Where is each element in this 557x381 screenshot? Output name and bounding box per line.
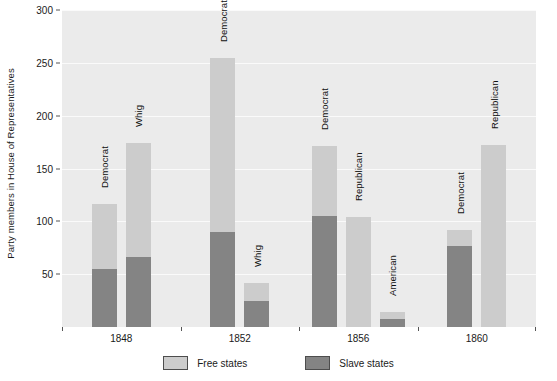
- y-axis-tick-label: 200: [0, 110, 60, 121]
- y-axis-tick-mark: [56, 62, 60, 63]
- legend-label-free-states: Free states: [197, 358, 247, 369]
- bar-segment-free-states: [481, 145, 506, 327]
- bar-segment-free-states: [244, 283, 269, 301]
- bar-1848-democrat: Democrat: [92, 204, 117, 327]
- bar-1856-republican: Republican: [346, 217, 371, 327]
- x-axis-tick-mark: [418, 327, 419, 331]
- y-axis-tick-mark: [56, 10, 60, 11]
- y-axis-tick-mark: [56, 274, 60, 275]
- y-axis-tick-mark: [56, 221, 60, 222]
- bar-segment-free-states: [126, 143, 151, 257]
- gridline: [62, 63, 536, 64]
- bar-1852-democrat: Democrat: [210, 58, 235, 327]
- x-axis-tick-label: 1852: [229, 333, 251, 344]
- x-axis-tick-mark: [535, 327, 536, 331]
- plot-area: DemocratWhigDemocratWhigDemocratRepublic…: [62, 10, 536, 327]
- x-axis: 1848185218561860: [62, 327, 536, 349]
- bar-segment-slave-states: [380, 319, 405, 327]
- bar-segment-slave-states: [312, 216, 337, 327]
- bar-label: American: [387, 255, 398, 296]
- bar-label: Whig: [251, 245, 262, 267]
- legend-item-slave-states: Slave states: [305, 356, 393, 370]
- bar-segment-slave-states: [210, 232, 235, 327]
- legend-swatch-free-states: [163, 356, 188, 370]
- y-axis-tick-label: 300: [0, 5, 60, 16]
- bar-label: Whig: [133, 105, 144, 127]
- bar-segment-free-states: [447, 230, 472, 246]
- bar-1848-whig: Whig: [126, 143, 151, 327]
- bar-label: Democrat: [319, 88, 330, 130]
- x-axis-tick-mark: [299, 327, 300, 331]
- bar-label: Democrat: [217, 0, 228, 42]
- y-axis-tick-mark: [56, 168, 60, 169]
- bar-1856-american: American: [380, 312, 405, 327]
- x-axis-tick-mark: [62, 327, 63, 331]
- bar-segment-free-states: [346, 217, 371, 327]
- y-axis-tick-label: 250: [0, 57, 60, 68]
- x-axis-tick-label: 1860: [466, 333, 488, 344]
- legend-swatch-slave-states: [305, 356, 330, 370]
- bar-segment-slave-states: [92, 269, 117, 327]
- bar-segment-slave-states: [244, 301, 269, 327]
- x-axis-tick-label: 1848: [110, 333, 132, 344]
- bar-segment-free-states: [380, 312, 405, 318]
- y-axis-tick-mark: [56, 115, 60, 116]
- bar-segment-free-states: [92, 204, 117, 268]
- y-axis-tick-label: 100: [0, 216, 60, 227]
- bar-label: Republican: [353, 153, 364, 202]
- y-axis-tick-label: 50: [0, 269, 60, 280]
- bar-segment-free-states: [312, 146, 337, 216]
- chart-legend: Free states Slave states: [0, 352, 557, 374]
- legend-item-free-states: Free states: [163, 356, 247, 370]
- bar-segment-slave-states: [447, 246, 472, 327]
- y-axis-tick-label: 150: [0, 163, 60, 174]
- chart-root: Party members in House of Representative…: [0, 0, 557, 381]
- bar-segment-free-states: [210, 58, 235, 232]
- bar-1860-democrat: Democrat: [447, 230, 472, 327]
- bar-1856-democrat: Democrat: [312, 146, 337, 327]
- bar-label: Republican: [488, 81, 499, 130]
- bar-1852-whig: Whig: [244, 283, 269, 327]
- legend-label-slave-states: Slave states: [339, 358, 393, 369]
- x-axis-tick-mark: [181, 327, 182, 331]
- gridline: [62, 10, 536, 11]
- x-axis-tick-label: 1856: [347, 333, 369, 344]
- bar-label: Democrat: [99, 146, 110, 188]
- bar-segment-slave-states: [126, 257, 151, 327]
- bar-1860-republican: Republican: [481, 145, 506, 327]
- bar-label: Democrat: [454, 172, 465, 214]
